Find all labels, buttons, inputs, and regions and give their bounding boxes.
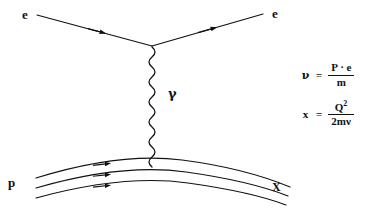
outgoing-electron-line	[152, 14, 263, 46]
equation-nu-denominator: m	[334, 76, 349, 89]
electron-out-label: e	[272, 7, 278, 20]
equation-nu-relation: =	[316, 69, 322, 81]
equation-x: x = Q2 2mν	[300, 100, 354, 128]
equation-x-numerator-exponent: 2	[343, 99, 347, 108]
hadronic-state-label: X	[272, 181, 281, 193]
equation-nu-numerator: P · e	[328, 62, 354, 75]
incoming-electron-arrow	[88, 29, 103, 33]
equation-nu-fraction: P · e m	[328, 62, 354, 88]
equation-x-fraction: Q2 2mν	[328, 100, 354, 128]
equation-x-relation: =	[316, 108, 322, 120]
equation-x-numerator: Q2	[332, 100, 351, 114]
equation-nu-lhs: ν	[300, 69, 311, 82]
proton-label: p	[8, 176, 15, 189]
equation-nu: ν = P · e m	[300, 62, 354, 88]
outgoing-electron-arrow	[198, 28, 214, 33]
quark-line-3-arrow	[93, 186, 108, 188]
incoming-electron-line	[37, 15, 152, 46]
photon-label: γ	[168, 87, 177, 100]
equation-x-denominator: 2mν	[328, 115, 354, 128]
photon-propagator-wave	[149, 47, 155, 167]
electron-in-label: e	[22, 8, 28, 21]
proton-quark-lines	[36, 158, 290, 205]
quark-line-1	[36, 158, 290, 187]
feynman-diagram: e e γ p X ν = P · e m x = Q2 2mν	[0, 0, 381, 209]
equation-x-lhs: x	[300, 108, 311, 120]
